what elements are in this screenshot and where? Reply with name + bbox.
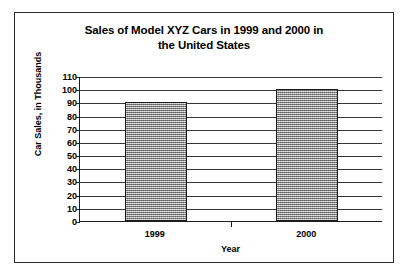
y-axis-tick-label: 10 bbox=[41, 204, 77, 214]
y-axis-tick-label: 30 bbox=[41, 177, 77, 187]
bar bbox=[276, 89, 338, 221]
chart-title-line-1: Sales of Model XYZ Cars in 1999 and 2000… bbox=[15, 23, 393, 38]
bar bbox=[125, 102, 187, 221]
y-axis-tick-label: 0 bbox=[41, 217, 77, 227]
y-axis-tick-label: 60 bbox=[41, 138, 77, 148]
bar-series bbox=[80, 77, 382, 221]
y-axis-tick-label: 40 bbox=[41, 164, 77, 174]
y-axis-tick-labels: 1101009080706050403020100 bbox=[41, 77, 77, 233]
y-axis-tick-label: 70 bbox=[41, 125, 77, 135]
x-axis-tick-labels: 19992000 bbox=[79, 228, 382, 242]
chart-title-line-2: the United States bbox=[15, 38, 393, 53]
chart-frame: Sales of Model XYZ Cars in 1999 and 2000… bbox=[14, 12, 394, 263]
y-axis-tick-label: 90 bbox=[41, 98, 77, 108]
plot-area bbox=[79, 77, 382, 222]
x-axis-tick-marks bbox=[79, 222, 382, 227]
chart-title: Sales of Model XYZ Cars in 1999 and 2000… bbox=[15, 23, 393, 53]
y-axis-tick-label: 80 bbox=[41, 112, 77, 122]
x-axis-tick-label: 1999 bbox=[79, 228, 231, 240]
y-axis-tick-label: 100 bbox=[41, 85, 77, 95]
x-axis-tick-label: 2000 bbox=[231, 228, 383, 240]
x-axis-tick-mark bbox=[231, 222, 232, 227]
x-axis-title: Year bbox=[79, 244, 382, 254]
y-axis-tick-label: 50 bbox=[41, 151, 77, 161]
y-axis-tick-label: 20 bbox=[41, 191, 77, 201]
y-axis-tick-label: 110 bbox=[41, 72, 77, 82]
